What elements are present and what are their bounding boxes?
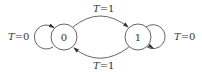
transition-s0-s1: [73, 16, 128, 27]
state-1-label: 1: [135, 32, 141, 43]
self-loop-s1-label: T=0: [174, 31, 195, 42]
transition-s0-s1-label: T=1: [93, 3, 114, 14]
transition-s1-s0: [74, 47, 129, 58]
transition-s1-s0-label: T=1: [93, 60, 114, 71]
state-diagram: 0 1 T=0 T=1 T=1 T=0: [0, 0, 202, 72]
state-1: 1: [125, 24, 151, 50]
state-0-label: 0: [61, 32, 67, 43]
self-loop-s0-label: T=0: [8, 31, 29, 42]
state-0: 0: [51, 24, 77, 50]
